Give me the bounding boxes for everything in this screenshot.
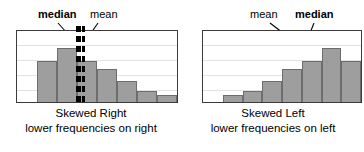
panel-skewed-right: median mean bbox=[0, 0, 182, 152]
histogram-bar bbox=[117, 81, 137, 102]
caption-line-2: lower frequencies on left bbox=[182, 121, 364, 136]
dash-segment bbox=[82, 46, 85, 52]
dash-segment bbox=[76, 46, 81, 52]
dash-segment bbox=[82, 96, 85, 102]
histogram-bar bbox=[137, 91, 157, 102]
mean-line bbox=[82, 26, 85, 103]
dash-segment bbox=[82, 76, 85, 82]
histogram-bar bbox=[243, 91, 263, 102]
histogram-bar bbox=[157, 95, 177, 102]
dash-segment bbox=[76, 56, 81, 62]
bar-series-skewed-left bbox=[203, 31, 361, 102]
histogram-bar bbox=[57, 48, 77, 102]
histogram-bar bbox=[97, 69, 117, 102]
annotation-labels-left: median mean bbox=[0, 8, 182, 22]
median-label: median bbox=[295, 8, 334, 20]
two-histograms-figure: median mean bbox=[0, 0, 364, 152]
histogram-bar bbox=[302, 61, 322, 102]
histogram-bar bbox=[223, 95, 243, 102]
caption-line-1: Skewed Left bbox=[182, 106, 364, 121]
dash-segment bbox=[82, 36, 85, 42]
histogram-bar bbox=[322, 48, 342, 102]
histogram-plot-skewed-right bbox=[16, 30, 178, 103]
dash-segment bbox=[76, 76, 81, 82]
histogram-bar bbox=[341, 61, 361, 102]
caption-line-1: Skewed Right bbox=[0, 106, 182, 121]
panel-skewed-left: mean median bbox=[182, 0, 364, 152]
dash-segment bbox=[76, 86, 81, 92]
caption-skewed-left: Skewed Left lower frequencies on left bbox=[182, 106, 364, 136]
histogram-plot-skewed-left bbox=[202, 30, 362, 103]
dash-segment bbox=[82, 86, 85, 92]
median-label: median bbox=[38, 8, 77, 20]
dash-segment bbox=[82, 26, 85, 32]
mean-label: mean bbox=[90, 8, 118, 20]
bar-series-skewed-right bbox=[17, 31, 177, 102]
annotation-labels-right: mean median bbox=[182, 8, 364, 22]
caption-skewed-right: Skewed Right lower frequencies on right bbox=[0, 106, 182, 136]
caption-line-2: lower frequencies on right bbox=[0, 121, 182, 136]
dash-segment bbox=[76, 26, 81, 32]
histogram-bar bbox=[37, 61, 57, 102]
center-lines-left bbox=[76, 30, 88, 103]
dash-segment bbox=[76, 96, 81, 102]
dash-segment bbox=[82, 56, 85, 62]
dash-segment bbox=[76, 66, 81, 72]
median-line bbox=[76, 26, 81, 103]
dash-segment bbox=[76, 36, 81, 42]
histogram-bar bbox=[262, 81, 282, 102]
histogram-bar bbox=[282, 69, 302, 102]
mean-label: mean bbox=[250, 8, 278, 20]
dash-segment bbox=[82, 66, 85, 72]
